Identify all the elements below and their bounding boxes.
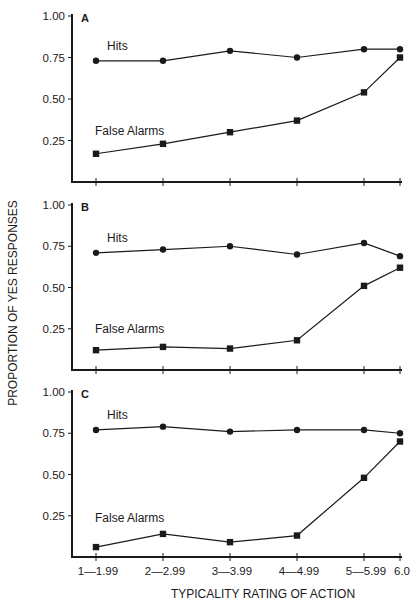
panel-letter: A (81, 12, 89, 24)
hits-marker (93, 58, 99, 64)
y-tick-label: 1.00 (43, 10, 65, 22)
y-tick-label: 0.25 (43, 323, 65, 335)
false-alarms-marker (294, 117, 300, 123)
x-tick-label: 3—3.99 (212, 565, 252, 577)
panel-letter: B (81, 201, 89, 213)
x-axis-label: TYPICALITY RATING OF ACTION (171, 587, 355, 601)
false-alarms-label: False Alarms (95, 511, 164, 525)
hits-marker (227, 48, 233, 54)
false-alarms-marker (294, 337, 300, 343)
y-tick-label: 1.00 (43, 386, 65, 398)
false-alarms-label: False Alarms (95, 124, 164, 138)
false-alarms-marker (160, 531, 166, 537)
false-alarms-marker (160, 344, 166, 350)
false-alarms-marker (397, 54, 403, 60)
hits-marker (397, 253, 403, 259)
y-tick-label: 0.50 (43, 469, 65, 481)
hits-marker (160, 58, 166, 64)
y-tick-label: 0.75 (43, 52, 65, 64)
hits-marker (93, 427, 99, 433)
false-alarms-marker (361, 475, 367, 481)
false-alarms-marker (160, 141, 166, 147)
hits-label: Hits (107, 39, 128, 53)
x-tick-label: 6.0 (394, 565, 410, 577)
false-alarms-marker (227, 345, 233, 351)
y-tick-label: 1.00 (43, 199, 65, 211)
x-tick-label: 4—4.99 (279, 565, 319, 577)
hits-marker (294, 54, 300, 60)
false-alarms-line (96, 58, 400, 154)
y-tick-label: 0.25 (43, 510, 65, 522)
panel-a: 1.000.750.500.25AHitsFalse Alarms (43, 10, 404, 186)
y-tick-label: 0.75 (43, 240, 65, 252)
false-alarms-marker (93, 544, 99, 550)
hits-marker (361, 46, 367, 52)
panel-c: 1.000.750.500.251—1.992—2.993—3.994—4.99… (43, 386, 410, 577)
panel-b: 1.000.750.500.25BHitsFalse Alarms (43, 199, 404, 374)
false-alarms-marker (294, 532, 300, 538)
false-alarms-marker (227, 129, 233, 135)
hits-marker (397, 46, 403, 52)
hits-line (96, 243, 400, 256)
x-tick-label: 1—1.99 (78, 565, 118, 577)
false-alarms-marker (227, 539, 233, 545)
y-tick-label: 0.25 (43, 135, 65, 147)
false-alarms-marker (361, 89, 367, 95)
hits-marker (361, 427, 367, 433)
panel-letter: C (81, 388, 89, 400)
hits-marker (227, 243, 233, 249)
y-tick-label: 0.50 (43, 282, 65, 294)
hits-marker (160, 246, 166, 252)
false-alarms-label: False Alarms (95, 322, 164, 336)
hits-marker (227, 428, 233, 434)
hits-label: Hits (107, 231, 128, 245)
x-tick-label: 5—5.99 (346, 565, 386, 577)
hits-marker (361, 240, 367, 246)
hits-marker (160, 423, 166, 429)
x-tick-label: 2—2.99 (145, 565, 185, 577)
hits-marker (397, 430, 403, 436)
false-alarms-marker (93, 151, 99, 157)
y-tick-label: 0.50 (43, 93, 65, 105)
hits-marker (93, 250, 99, 256)
false-alarms-line (96, 268, 400, 351)
false-alarms-marker (361, 283, 367, 289)
hits-marker (294, 427, 300, 433)
hits-line (96, 427, 400, 434)
false-alarms-marker (397, 265, 403, 271)
false-alarms-line (96, 442, 400, 548)
hits-marker (294, 251, 300, 257)
y-axis-label: PROPORTION OF YES RESPONSES (6, 200, 20, 406)
chart: 1.000.750.500.25AHitsFalse Alarms1.000.7… (0, 0, 419, 605)
y-tick-label: 0.75 (43, 427, 65, 439)
false-alarms-marker (93, 347, 99, 353)
hits-label: Hits (107, 408, 128, 422)
false-alarms-marker (397, 438, 403, 444)
hits-line (96, 49, 400, 61)
